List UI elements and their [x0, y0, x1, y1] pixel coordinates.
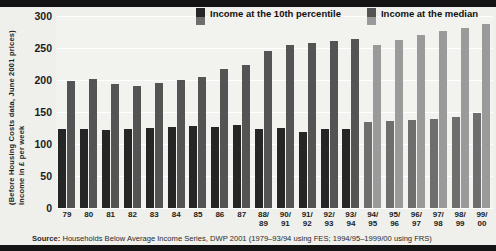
bar-median — [155, 83, 163, 208]
bar-group — [340, 16, 362, 208]
bar-group — [253, 16, 275, 208]
x-axis-tick-label: 97/98 — [427, 210, 449, 228]
y-axis-tick-label: 300 — [8, 10, 52, 22]
x-label-top: 99/ — [471, 210, 493, 219]
bar-median — [439, 31, 447, 208]
x-label-top: 98/ — [449, 210, 471, 219]
x-label-top: 84 — [165, 210, 187, 219]
bar-group — [165, 16, 187, 208]
x-label-top: 93/ — [340, 210, 362, 219]
bar-10th-percentile — [342, 129, 350, 208]
x-label-top: 79 — [56, 210, 78, 219]
y-axis-tick-label: 100 — [8, 138, 52, 150]
x-label-top: 85 — [187, 210, 209, 219]
bar-10th-percentile — [299, 132, 307, 208]
x-axis-tick-label: 84 — [165, 210, 187, 228]
bar-group — [209, 16, 231, 208]
x-label-bottom: 00 — [471, 219, 493, 228]
bar-group — [471, 16, 493, 208]
x-label-top: 90/ — [274, 210, 296, 219]
source-prefix: Source: — [32, 234, 60, 243]
bar-10th-percentile — [430, 119, 438, 208]
x-axis-tick-label: 85 — [187, 210, 209, 228]
x-label-bottom: 97 — [406, 219, 428, 228]
x-label-bottom: 96 — [384, 219, 406, 228]
x-label-bottom: 93 — [318, 219, 340, 228]
x-axis-tick-label: 99/00 — [471, 210, 493, 228]
bar-10th-percentile — [321, 129, 329, 208]
x-label-top: 82 — [122, 210, 144, 219]
bar-group — [296, 16, 318, 208]
bar-median — [89, 79, 97, 208]
x-label-top: 83 — [143, 210, 165, 219]
bar-group — [362, 16, 384, 208]
bar-group — [231, 16, 253, 208]
x-axis-tick-label: 92/93 — [318, 210, 340, 228]
y-axis-tick-label: 150 — [8, 106, 52, 118]
x-axis-tick-label: 95/96 — [384, 210, 406, 228]
x-axis-tick-label: 98/99 — [449, 210, 471, 228]
bar-10th-percentile — [211, 127, 219, 208]
bar-group — [187, 16, 209, 208]
x-label-top: 81 — [100, 210, 122, 219]
bar-median — [330, 41, 338, 208]
bar-group — [56, 16, 78, 208]
x-label-top: 80 — [78, 210, 100, 219]
bar-group — [143, 16, 165, 208]
source-text: Households Below Average Income Series, … — [60, 234, 432, 243]
x-axis-tick-label: 81 — [100, 210, 122, 228]
x-axis-tick-label: 94/95 — [362, 210, 384, 228]
x-axis-tick-label: 87 — [231, 210, 253, 228]
x-label-top: 95/ — [384, 210, 406, 219]
bar-median — [286, 45, 294, 208]
x-label-bottom: 89 — [253, 219, 275, 228]
x-axis-tick-label: 96/97 — [406, 210, 428, 228]
x-label-top: 97/ — [427, 210, 449, 219]
bar-group — [384, 16, 406, 208]
bar-10th-percentile — [255, 129, 263, 208]
bar-10th-percentile — [168, 127, 176, 208]
bar-median — [133, 86, 141, 208]
bar-group — [427, 16, 449, 208]
bar-median — [220, 69, 228, 208]
x-label-bottom: 95 — [362, 219, 384, 228]
bar-10th-percentile — [124, 129, 132, 208]
bar-median — [373, 45, 381, 208]
x-label-top: 92/ — [318, 210, 340, 219]
x-axis-tick-label: 93/94 — [340, 210, 362, 228]
bar-group — [449, 16, 471, 208]
bar-group — [274, 16, 296, 208]
bar-groups — [56, 16, 493, 208]
bar-median — [111, 84, 119, 208]
bar-10th-percentile — [408, 120, 416, 208]
y-axis-tick-label: 200 — [8, 74, 52, 86]
y-axis-tick-label: 0 — [8, 202, 52, 214]
bar-group — [100, 16, 122, 208]
bar-median — [198, 77, 206, 208]
bar-median — [242, 65, 250, 208]
bar-10th-percentile — [386, 121, 394, 208]
x-axis-tick-label: 90/91 — [274, 210, 296, 228]
x-axis-tick-label: 91/92 — [296, 210, 318, 228]
bar-median — [395, 40, 403, 208]
bar-10th-percentile — [189, 126, 197, 208]
bar-10th-percentile — [58, 129, 66, 208]
bar-10th-percentile — [277, 128, 285, 208]
bar-10th-percentile — [473, 113, 481, 208]
bar-group — [318, 16, 340, 208]
x-label-top: 88/ — [253, 210, 275, 219]
bar-10th-percentile — [452, 117, 460, 208]
x-label-top: 87 — [231, 210, 253, 219]
y-axis-tick-label: 250 — [8, 42, 52, 54]
x-label-bottom: 91 — [274, 219, 296, 228]
bar-group — [122, 16, 144, 208]
x-label-top: 91/ — [296, 210, 318, 219]
bar-median — [482, 24, 490, 208]
x-label-top: 94/ — [362, 210, 384, 219]
bar-median — [417, 35, 425, 208]
x-axis-tick-label: 88/89 — [253, 210, 275, 228]
bar-10th-percentile — [80, 129, 88, 208]
bar-median — [264, 51, 272, 208]
x-axis-tick-label: 86 — [209, 210, 231, 228]
x-axis-tick-label: 83 — [143, 210, 165, 228]
